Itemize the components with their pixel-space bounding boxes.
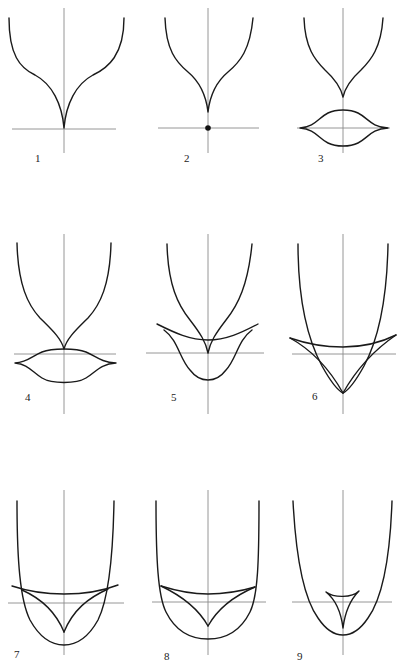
panel-label: 4 xyxy=(25,391,31,403)
cusp-side-left xyxy=(22,590,64,632)
panel-2: 2 xyxy=(158,8,259,164)
panel-label: 3 xyxy=(318,152,324,164)
degenerate-point xyxy=(205,125,211,131)
u-curve xyxy=(17,501,114,645)
deltoid-curve xyxy=(326,591,359,628)
panel-9: 9 xyxy=(292,490,392,662)
panel-8: 8 xyxy=(152,490,266,662)
panel-label: 7 xyxy=(14,648,20,660)
panel-4: 4 xyxy=(14,234,116,414)
cusp-curve xyxy=(9,18,124,128)
panel-6: 6 xyxy=(290,234,396,414)
cusp-curve xyxy=(304,18,383,97)
panel-label: 8 xyxy=(164,650,170,662)
panel-1: 1 xyxy=(9,8,124,164)
panel-label: 6 xyxy=(312,390,318,402)
cusp-curve xyxy=(165,18,253,112)
panel-label: 9 xyxy=(297,650,303,662)
panel-7: 7 xyxy=(8,490,124,660)
parabola-curve xyxy=(293,501,392,635)
cusp-curve xyxy=(167,244,252,353)
panel-3: 3 xyxy=(297,8,390,164)
panel-5: 5 xyxy=(146,234,264,414)
panel-label: 1 xyxy=(35,152,41,164)
panel-label: 2 xyxy=(184,152,190,164)
figure-canvas: 1 2 3 4 5 6 xyxy=(0,0,405,669)
u-curve xyxy=(156,501,259,639)
panel-label: 5 xyxy=(171,391,177,403)
